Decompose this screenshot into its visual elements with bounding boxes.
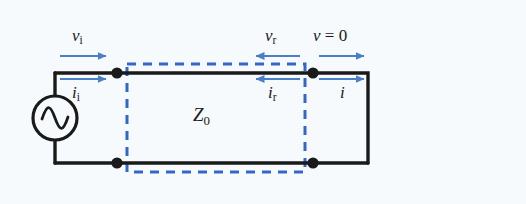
load-voltage-label: v = 0 [313,27,347,44]
node-dot-input-bottom [111,157,122,168]
incident-voltage-label: vi [72,27,83,47]
reflected-current-label: ir [268,84,277,104]
circuit-diagram: vi ii vr ir v = 0 i Z0 [0,0,526,204]
incident-current-label: ii [72,84,80,104]
node-dot-load-top [307,67,318,78]
node-dot-load-bottom [307,157,318,168]
load-current-label: i [340,84,345,101]
transmission-line-box [127,64,305,172]
node-dot-input-top [111,67,122,78]
characteristic-impedance-label: Z0 [193,105,210,128]
reflected-voltage-label: vr [265,27,276,47]
